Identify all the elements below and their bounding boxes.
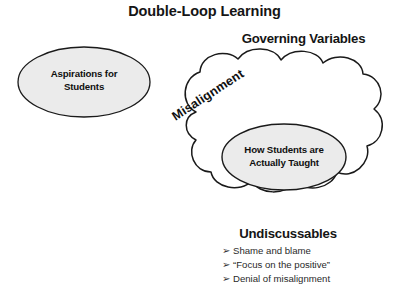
- arrow-bullet-icon: ➢: [222, 244, 233, 258]
- list-item: ➢ Denial of misalignment: [222, 272, 407, 286]
- page-title: Double-Loop Learning: [0, 3, 409, 19]
- governing-variables-heading: Governing Variables: [216, 31, 391, 46]
- diagram-canvas: Double-Loop Learning Governing Variables…: [0, 0, 409, 293]
- list-item: ➢ Shame and blame: [222, 244, 407, 258]
- arrow-bullet-icon: ➢: [222, 272, 233, 286]
- arrow-bullet-icon: ➢: [222, 258, 233, 272]
- list-item-label: Shame and blame: [233, 244, 311, 258]
- undiscussables-list: ➢ Shame and blame ➢ “Focus on the positi…: [222, 244, 407, 287]
- list-item: ➢ “Focus on the positive”: [222, 258, 407, 272]
- taught-ellipse: [222, 124, 346, 190]
- list-item-label: Denial of misalignment: [233, 272, 330, 286]
- aspirations-ellipse: [18, 47, 150, 117]
- undiscussables-heading: Undiscussables: [208, 226, 368, 241]
- list-item-label: “Focus on the positive”: [233, 258, 330, 272]
